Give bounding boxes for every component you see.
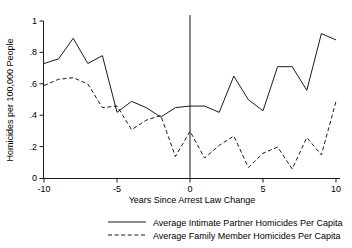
x-axis-tick-label: 5 (260, 184, 265, 194)
y-axis-tick-label: .8 (29, 47, 37, 57)
x-axis-tick-label: 0 (187, 184, 192, 194)
y-axis-tick-label: .2 (29, 142, 37, 152)
x-axis-tick-label: -10 (37, 184, 50, 194)
x-axis-tick-label: -5 (113, 184, 121, 194)
chart-figure: 1 .8 .6 .4 .2 0 -10 -5 0 5 10 Years Sinc… (0, 0, 352, 248)
legend-label-family-member: Average Family Member Homicides Per Capi… (153, 231, 340, 241)
y-axis-tick-label: .6 (29, 79, 37, 89)
y-axis-title: Homicides per 100,000 People (5, 38, 15, 161)
legend-label-intimate-partner: Average Intimate Partner Homicides Per C… (153, 218, 342, 228)
y-axis-tick-label: 1 (32, 16, 37, 26)
y-axis-tick-label: .4 (29, 110, 37, 120)
x-axis-tick-label: 10 (331, 184, 341, 194)
y-axis-tick-label: 0 (32, 173, 37, 183)
line-chart: 1 .8 .6 .4 .2 0 -10 -5 0 5 10 Years Sinc… (0, 0, 352, 248)
x-axis-title: Years Since Arrest Law Change (129, 195, 256, 205)
